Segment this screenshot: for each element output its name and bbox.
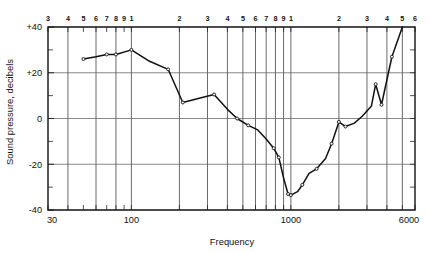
top-axis-label-2000: 2 (337, 14, 341, 23)
data-point-marker (337, 120, 340, 123)
top-axis-label-3000: 3 (365, 14, 369, 23)
top-axis-label-60: 6 (94, 14, 98, 23)
top-axis-label-100: 1 (129, 14, 133, 23)
top-axis-labels: 3456789123456789123456 (46, 14, 417, 23)
sound-pressure-frequency-chart: 3456789123456789123456 +40+200-20-40 301… (0, 0, 429, 253)
top-axis-label-40: 4 (66, 14, 70, 23)
y-axis-label-0: 0 (37, 114, 42, 124)
top-axis-label-900: 9 (282, 14, 286, 23)
y-axis-label-40: +40 (26, 22, 42, 32)
y-axis-label--40: -40 (29, 205, 42, 215)
data-point-marker (374, 83, 377, 86)
data-point-marker (390, 55, 393, 58)
top-axis-label-70: 7 (105, 14, 109, 23)
top-axis-label-80: 8 (114, 14, 118, 23)
y-axis-label--20: -20 (29, 160, 42, 170)
top-axis-label-50: 5 (81, 14, 85, 23)
chart-container: 3456789123456789123456 +40+200-20-40 301… (0, 0, 429, 253)
data-point-marker (114, 53, 117, 56)
data-point-marker (247, 124, 250, 127)
data-point-marker (315, 167, 318, 170)
right-axis-ticks (410, 50, 415, 187)
x-axis-title: Frequency (210, 236, 255, 247)
top-axis-label-500: 5 (241, 14, 245, 23)
bottom-axis-ticks (48, 205, 415, 210)
top-axis-label-800: 8 (273, 14, 277, 23)
y-axis-title: Sound pressure, decibels (4, 59, 15, 165)
x-axis-label-6000: 6000 (399, 215, 419, 225)
data-point-marker (272, 147, 275, 150)
top-axis-label-700: 7 (264, 14, 268, 23)
top-axis-ticks (48, 27, 415, 32)
data-point-marker (301, 183, 304, 186)
data-point-marker (130, 48, 133, 51)
top-axis-label-90: 9 (122, 14, 126, 23)
left-axis-ticks (48, 27, 54, 210)
y-axis-tick-labels: +40+200-20-40 (26, 22, 42, 215)
data-point-marker (213, 93, 216, 96)
y-axis-label-20: +20 (26, 68, 42, 78)
data-point-marker (167, 68, 170, 71)
x-axis-label-1000: 1000 (281, 215, 301, 225)
data-point-markers (82, 48, 394, 196)
top-axis-label-4000: 4 (385, 14, 389, 23)
data-point-marker (181, 101, 184, 104)
top-axis-label-400: 4 (225, 14, 229, 23)
top-axis-label-5000: 5 (400, 14, 404, 23)
data-point-marker (236, 117, 239, 120)
top-axis-label-1000: 1 (289, 14, 293, 23)
data-point-marker (277, 156, 280, 159)
x-axis-tick-labels: 3010010006000 (47, 215, 419, 225)
top-axis-label-30: 3 (46, 14, 50, 23)
data-point-marker (82, 58, 85, 61)
top-axis-label-200: 2 (177, 14, 181, 23)
x-axis-label-100: 100 (124, 215, 139, 225)
top-axis-label-6000: 6 (413, 14, 417, 23)
data-point-marker (344, 125, 347, 128)
data-point-marker (105, 53, 108, 56)
data-point-marker (380, 103, 383, 106)
top-axis-label-600: 6 (254, 14, 258, 23)
data-point-marker (289, 194, 292, 197)
top-axis-label-300: 3 (205, 14, 209, 23)
data-point-marker (330, 142, 333, 145)
x-axis-label-30: 30 (47, 215, 57, 225)
data-series (82, 27, 402, 197)
